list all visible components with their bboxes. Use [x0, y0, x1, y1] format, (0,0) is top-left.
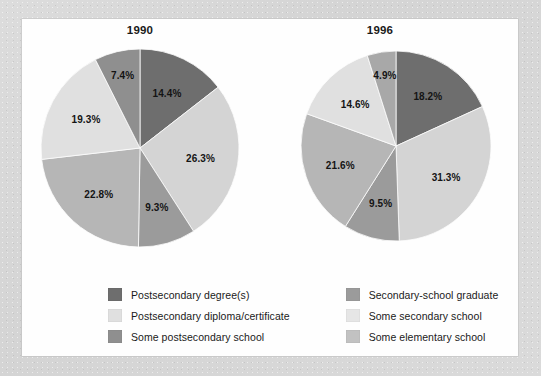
legend-swatch — [108, 330, 122, 343]
legend-label: Some secondary school — [369, 310, 482, 322]
pie-slice-label: 9.3% — [145, 202, 168, 213]
legend-swatch — [346, 288, 360, 301]
legend-label: Secondary-school graduate — [369, 289, 499, 301]
chart-title-1990: 1990 — [22, 24, 258, 36]
pie-1990-svg — [40, 48, 240, 248]
legend-item: Postsecondary degree(s) — [108, 287, 290, 302]
pie-slice-label: 14.6% — [341, 98, 370, 109]
pie-slice-label: 9.5% — [369, 197, 392, 208]
legend-item: Postsecondary diploma/certificate — [108, 308, 290, 323]
legend-swatch — [346, 330, 360, 343]
legend-column-left: Postsecondary degree(s)Postsecondary dip… — [108, 287, 290, 344]
legend-swatch — [108, 309, 122, 322]
pie-slice-label: 31.3% — [432, 171, 461, 182]
legend: Postsecondary degree(s)Postsecondary dip… — [108, 287, 508, 344]
pie-slice-label: 4.9% — [373, 69, 396, 80]
chart-panel: 1990 1996 14.4%26.3%9.3%22.8%19.3%7.4% 1… — [22, 19, 518, 356]
pie-1990-slices — [41, 49, 239, 247]
legend-swatch — [108, 288, 122, 301]
legend-column-right: Secondary-school graduateSome secondary … — [346, 287, 499, 344]
pie-slice-label: 21.6% — [326, 160, 355, 171]
legend-label: Postsecondary degree(s) — [131, 289, 249, 301]
pie-slice-label: 18.2% — [413, 91, 442, 102]
legend-label: Postsecondary diploma/certificate — [131, 310, 290, 322]
chart-title-1996: 1996 — [262, 24, 498, 36]
pie-chart-1990: 14.4%26.3%9.3%22.8%19.3%7.4% — [40, 48, 240, 248]
legend-item: Some secondary school — [346, 308, 499, 323]
pie-slice-label: 19.3% — [72, 113, 101, 124]
legend-item: Some elementary school — [346, 329, 499, 344]
legend-item: Some postsecondary school — [108, 329, 290, 344]
pie-slice-label: 7.4% — [111, 69, 134, 80]
pie-slice-label: 26.3% — [186, 153, 215, 164]
legend-swatch — [346, 309, 360, 322]
figure-root: 1990 1996 14.4%26.3%9.3%22.8%19.3%7.4% 1… — [0, 0, 541, 376]
pie-chart-1996: 18.2%31.3%9.5%21.6%14.6%4.9% — [300, 50, 492, 242]
pie-slice-label: 14.4% — [153, 87, 182, 98]
legend-label: Some elementary school — [369, 331, 486, 343]
pie-slice-label: 22.8% — [84, 188, 113, 199]
legend-label: Some postsecondary school — [131, 331, 264, 343]
legend-item: Secondary-school graduate — [346, 287, 499, 302]
